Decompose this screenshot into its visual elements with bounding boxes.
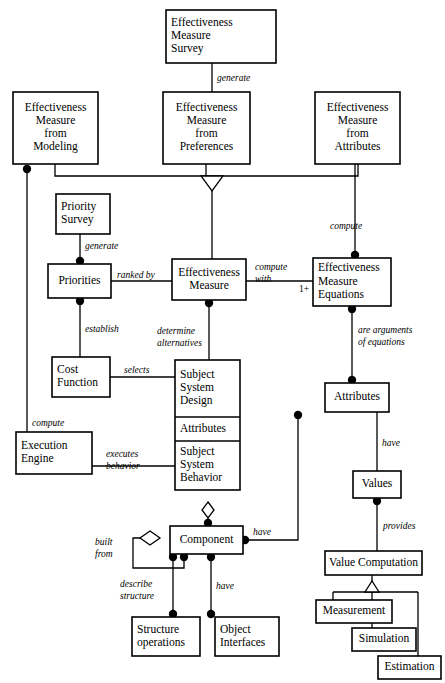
effectiveness-measure-equations-text-line: Equations (318, 288, 365, 301)
edge-cost-selects-design-label: selects (124, 365, 150, 375)
effectiveness-measure-text-line: Measure (189, 279, 229, 291)
edge-component-built-from-self-label: built (95, 537, 113, 547)
subject-system-behavior-section-text-line: Subject (180, 445, 215, 458)
effectiveness-measure-from-modeling-text-line: Modeling (33, 140, 78, 153)
effectiveness-measure-from-modeling-text-line: Measure (36, 114, 76, 126)
edge-priorities-ranked-by-em-label: ranked by (117, 270, 156, 280)
priority-survey-text-line: Priority (61, 200, 96, 213)
effectiveness-measure-survey-text-line: Measure (171, 29, 211, 41)
edge-equations-arguments-attributes-label: are arguments (358, 325, 413, 335)
subject-system-design-section-text-line: Design (180, 394, 213, 407)
effectiveness-measure-from-preferences-text-line: from (195, 127, 217, 139)
object-interfaces-text-line: Interfaces (220, 636, 266, 648)
structure-operations-text-line: operations (137, 636, 185, 649)
effectiveness-measure-from-preferences-text-line: Measure (187, 114, 227, 126)
execution-engine-text-line: Execution (21, 439, 68, 451)
subject-system-behavior-section-text-line: System (180, 458, 214, 471)
effectiveness-measure-from-attributes-text-line: from (346, 127, 368, 139)
diagram-canvas: generatecomputegenerateranked byestablis… (0, 0, 445, 683)
simulation-text-line: Simulation (359, 632, 410, 644)
edge-component-describe-structure-label: structure (120, 591, 154, 601)
aggregation-diamond-subject-system-behavior (202, 502, 214, 518)
attributes-section-text-line: Attributes (180, 422, 227, 434)
priorities-text-line: Priorities (58, 274, 101, 286)
edge-em-compute-with-equations-label: with (255, 274, 272, 284)
edge-component-built-from-self-label: from (95, 549, 113, 559)
effectiveness-measure-survey-text-line: Survey (171, 42, 204, 55)
execution-engine-text-line: Engine (21, 452, 54, 465)
subject-system-behavior-section-text-line: Behavior (180, 471, 222, 483)
component-text-line: Component (180, 533, 234, 546)
edge-survey-generates-priorities-label: generate (85, 241, 118, 251)
subject-system-design-section-text-line: Subject (180, 368, 215, 381)
effectiveness-measure-from-modeling-text-line: Effectiveness (25, 101, 87, 113)
generalization-triangle-effectiveness-measure (201, 176, 223, 191)
cost-function-text-line: Function (57, 376, 98, 388)
edge-modeling-to-bus (55, 164, 206, 176)
value-computation-text-line: Value Computation (329, 556, 418, 569)
edge-em-compute-with-equations-label: compute (255, 262, 287, 272)
effectiveness-measure-from-modeling-text-line: from (44, 127, 66, 139)
edge-equations-arguments-attributes-label: of equations (358, 337, 405, 347)
edge-attributes-compute-equations-label: compute (330, 221, 362, 231)
edge-execution-executes-behavior-label: behavior (106, 461, 140, 471)
aggregation-diamond-component-built-from (140, 531, 160, 545)
edge-component-have-objint-label: have (216, 581, 234, 591)
multiplicity-equations: 1+ (299, 284, 309, 294)
priority-survey-text-line: Survey (61, 213, 94, 226)
edge-component-have-attributes-endpoint-dot (294, 411, 302, 419)
edge-execution-executes-behavior-label: executes (106, 449, 138, 459)
object-interfaces-text-line: Object (220, 623, 251, 636)
generalization-triangle-value-computation (365, 581, 379, 592)
edge-em-determine-alternatives-label: determine (157, 326, 195, 336)
effectiveness-measure-survey-text-line: Effectiveness (171, 16, 233, 28)
attributes-text-line: Attributes (334, 390, 381, 402)
uml-class-diagram: generatecomputegenerateranked byestablis… (0, 0, 445, 683)
edge-survey-generates-preferences-label: generate (217, 73, 250, 83)
subject-system-design-section-text-line: System (180, 381, 214, 394)
estimation-text-line: Estimation (385, 660, 435, 672)
structure-operations-text-line: Structure (137, 623, 179, 635)
effectiveness-measure-from-attributes-text-line: Effectiveness (327, 101, 389, 113)
cost-function-text-line: Cost (57, 363, 79, 375)
effectiveness-measure-from-attributes-text-line: Attributes (335, 140, 382, 152)
effectiveness-measure-text-line: Effectiveness (178, 266, 240, 278)
edge-values-provides-vcomp-label: provides (382, 521, 416, 531)
edge-priorities-establish-cost-label: establish (85, 324, 119, 334)
edge-modeling-computes-execution-label: compute (32, 418, 64, 428)
edge-em-determine-alternatives-label: alternatives (157, 338, 202, 348)
edge-component-have-attributes-label: have (253, 527, 271, 537)
effectiveness-measure-from-attributes-text-line: Measure (338, 114, 378, 126)
effectiveness-measure-equations-text-line: Effectiveness (318, 261, 380, 273)
measurement-text-line: Measurement (323, 604, 386, 616)
edge-modeling-computes-execution-endpoint-dot (23, 165, 31, 173)
edge-component-have-attributes (243, 412, 298, 540)
effectiveness-measure-equations-text-line: Measure (318, 275, 358, 287)
edge-attributes-to-bus (218, 164, 358, 176)
effectiveness-measure-from-preferences-text-line: Preferences (180, 140, 234, 152)
edge-attributes-have-values-label: have (382, 438, 400, 448)
edge-component-describe-structure-label: describe (120, 579, 152, 589)
edge-component-have-objint-endpoint-dot (207, 610, 215, 618)
effectiveness-measure-from-preferences-text-line: Effectiveness (176, 101, 238, 113)
values-text-line: Values (362, 477, 393, 489)
edge-preferences-to-triangle (206, 164, 218, 176)
